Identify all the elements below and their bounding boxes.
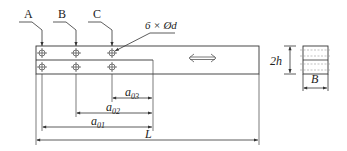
length-label: L — [145, 128, 152, 140]
height-label: 2h — [270, 55, 282, 67]
a03-subscript: 03 — [131, 92, 139, 101]
a03-label: a03 — [125, 86, 139, 101]
load-arrow-icon — [189, 54, 216, 62]
row-label-c: C — [93, 8, 101, 20]
width-label: B — [311, 73, 318, 85]
a01-subscript: 01 — [97, 121, 105, 130]
hole-icon — [107, 48, 117, 58]
row-label-a: A — [24, 8, 33, 20]
a01-label: a01 — [91, 115, 105, 130]
hole-icon — [37, 62, 47, 72]
hole-icon — [107, 62, 117, 72]
a02-label: a02 — [106, 101, 120, 116]
row-label-b: B — [58, 8, 66, 20]
hole-icon — [71, 48, 81, 58]
a02-subscript: 02 — [112, 107, 120, 116]
hole-callout: 6 × Ød — [145, 20, 177, 31]
specimen-bar — [36, 46, 259, 74]
hole-callout-leader — [115, 33, 175, 51]
hole-icon — [37, 48, 47, 58]
height-dimension — [284, 46, 296, 74]
hole-icon — [71, 62, 81, 72]
